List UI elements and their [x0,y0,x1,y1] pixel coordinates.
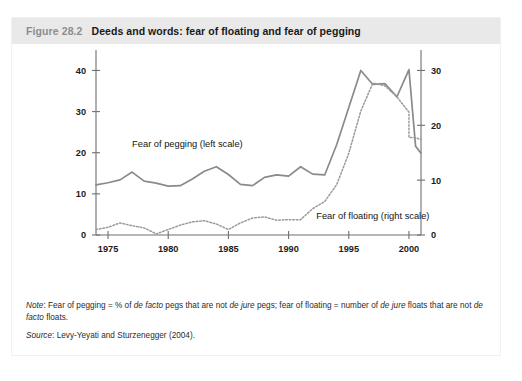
left-axis-tick-label: 20 [76,148,86,158]
left-axis-tick-label: 10 [76,189,86,199]
x-axis-tick-label: 1995 [339,244,359,254]
right-axis-tick-label: 30 [431,66,441,76]
chart-plot-area: 010203040 0102030 1975198019851990199520… [12,44,500,292]
x-axis: 197519801985199019952000 [96,231,421,254]
line-chart: 010203040 0102030 1975198019851990199520… [12,44,500,292]
series-annotations: Fear of pegging (left scale)Fear of floa… [132,139,429,221]
label-fear-of-floating: Fear of floating (right scale) [316,211,429,221]
figure-notes: Note: Fear of pegging = % of de facto pe… [26,300,488,342]
x-axis-tick-label: 1990 [278,244,298,254]
right-axis-tick-label: 10 [431,176,441,186]
left-axis-tick-label: 40 [76,66,86,76]
x-axis-tick-label: 1975 [98,244,118,254]
right-axis-tick-label: 0 [431,230,436,240]
left-axis: 010203040 [76,50,100,240]
figure-card: Figure 28.2 Deeds and words: fear of flo… [12,18,500,355]
note-label: Note [26,301,43,310]
x-axis-tick-label: 2000 [399,244,419,254]
series-fear-of-pegging [96,70,421,186]
note-text: : Fear of pegging = % of de facto pegs t… [26,301,483,322]
source-line: Source: Levy-Yeyati and Sturzenegger (20… [26,330,488,342]
right-axis-tick-label: 20 [431,121,441,131]
figure-number: Figure 28.2 [26,25,83,37]
note-line: Note: Fear of pegging = % of de facto pe… [26,300,488,325]
left-axis-tick-label: 30 [76,107,86,117]
label-fear-of-pegging: Fear of pegging (left scale) [132,139,243,149]
figure-header: Figure 28.2 Deeds and words: fear of flo… [12,18,500,44]
source-text: : Levy-Yeyati and Sturzenegger (2004). [52,331,195,340]
figure-title: Deeds and words: fear of floating and fe… [92,25,361,37]
x-axis-tick-label: 1980 [158,244,178,254]
x-axis-tick-label: 1985 [218,244,238,254]
left-axis-tick-label: 0 [81,230,86,240]
chart-series [96,70,421,234]
source-label: Source [26,331,52,340]
